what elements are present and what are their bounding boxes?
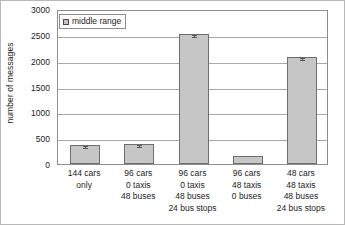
x-axis-tick-label-line: 48 taxis [274, 180, 328, 192]
error-bar-cap [192, 35, 197, 36]
x-axis-tick-label-line: 96 cars [165, 168, 219, 180]
y-axis-tick-label: 1000 [31, 108, 50, 118]
x-axis-tick-label: 96 cars0 taxis48 buses [111, 168, 165, 203]
x-axis-tick-label: 48 cars48 taxis48 buses24 bus stops [274, 168, 328, 214]
bar [179, 34, 209, 164]
error-bar-cap [300, 60, 305, 61]
x-axis-tick-label-line: 96 cars [111, 168, 165, 180]
bar [287, 57, 317, 164]
y-axis-tick-labels: 050010001500200025003000 [18, 1, 54, 171]
x-axis-tick-label-line: 48 cars [274, 168, 328, 180]
error-bar-cap [83, 146, 88, 147]
x-axis-tick-label-line: 48 buses [165, 191, 219, 203]
legend-swatch-icon [63, 19, 69, 25]
legend-label: middle range [72, 16, 121, 27]
x-axis-tick-label-line: 0 taxis [165, 180, 219, 192]
error-bar-cap [192, 37, 197, 38]
y-axis-tick-label: 2500 [31, 31, 50, 41]
x-axis-tick-label-line: only [57, 180, 111, 192]
x-axis-tick-label-line: 96 cars [220, 168, 274, 180]
x-axis-tick-label: 96 cars0 taxis48 buses24 bus stops [165, 168, 219, 214]
chart-legend: middle range [59, 14, 126, 29]
y-axis-title: number of messages [3, 1, 17, 164]
error-bar-cap [83, 148, 88, 149]
bar-chart-figure: number of messages 050010001500200025003… [0, 0, 345, 225]
error-bar-cap [300, 58, 305, 59]
y-axis-title-text: number of messages [5, 42, 15, 123]
x-axis-tick-label-line: 48 buses [274, 191, 328, 203]
plot-area [57, 10, 328, 165]
y-axis-tick-label: 1500 [31, 83, 50, 93]
x-axis-tick-label-line: 48 taxis [220, 180, 274, 192]
bar [233, 156, 263, 164]
x-axis-tick-label: 96 cars48 taxis0 buses [220, 168, 274, 203]
y-axis-tick-label: 0 [45, 160, 50, 170]
y-axis-tick-label: 2000 [31, 57, 50, 67]
x-axis-tick-label-line: 24 bus stops [165, 203, 219, 215]
error-bar-cap [137, 147, 142, 148]
x-axis-tick-label-line: 0 taxis [111, 180, 165, 192]
x-axis-tick-label: 144 carsonly [57, 168, 111, 191]
error-bar-cap [137, 145, 142, 146]
y-axis-tick-label: 3000 [31, 5, 50, 15]
x-axis-tick-labels: 144 carsonly96 cars0 taxis48 buses96 car… [57, 168, 328, 224]
x-axis-tick-label-line: 0 buses [220, 191, 274, 203]
x-axis-tick-label-line: 144 cars [57, 168, 111, 180]
x-axis-tick-label-line: 48 buses [111, 191, 165, 203]
y-axis-tick-label: 500 [36, 134, 50, 144]
x-axis-tick-label-line: 24 bus stops [274, 203, 328, 215]
